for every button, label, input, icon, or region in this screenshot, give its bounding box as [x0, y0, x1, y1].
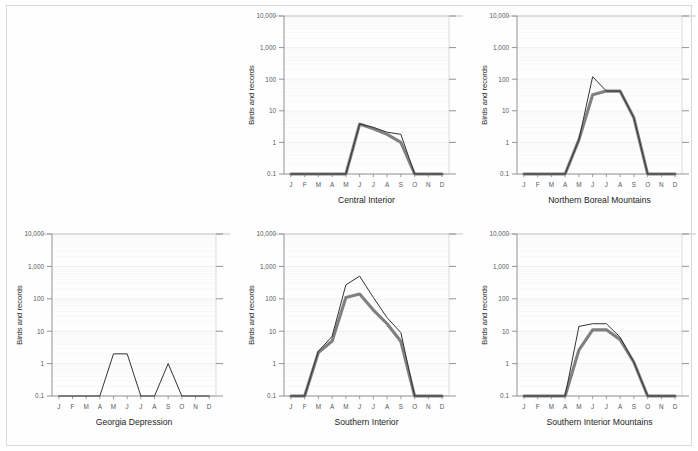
empty-cell [0, 0, 232, 218]
y-tick-label: 10 [269, 328, 277, 335]
x-tick-label: D [207, 403, 212, 410]
x-tick-label: N [659, 403, 664, 410]
y-tick-label: 10,000 [24, 230, 44, 237]
y-axis-label: Birds and records [15, 285, 24, 345]
x-tick-label: F [303, 403, 307, 410]
chart-panel: 10,0001,0001001010.1JFMAMJJASONDBirds an… [465, 218, 698, 440]
x-tick-label: N [426, 403, 431, 410]
x-tick-label: O [412, 403, 417, 410]
x-tick-label: S [632, 181, 636, 188]
panel-title: Southern Interior Mountains [546, 417, 652, 427]
x-tick-label: J [289, 403, 292, 410]
x-tick-label: N [659, 181, 664, 188]
y-tick-label: 1 [272, 139, 276, 146]
chart-panel: 10,0001,0001001010.1JFMAMJJASONDBirds an… [465, 0, 698, 218]
x-tick-label: D [673, 403, 678, 410]
y-tick-label: 1,000 [28, 263, 44, 270]
y-tick-label: 10,000 [256, 12, 276, 19]
y-tick-label: 1,000 [493, 44, 509, 51]
panel-title: Georgia Depression [96, 417, 173, 427]
x-tick-label: J [358, 181, 361, 188]
x-tick-label: J [289, 181, 292, 188]
y-tick-label: 0.1 [267, 392, 276, 399]
y-tick-label: 1,000 [493, 263, 509, 270]
panel-title: Central Interior [338, 195, 395, 205]
x-tick-label: M [343, 403, 348, 410]
y-tick-label: 10 [502, 328, 510, 335]
x-tick-label: A [385, 403, 390, 410]
x-tick-label: J [522, 181, 525, 188]
x-tick-label: O [412, 181, 417, 188]
x-tick-label: F [71, 403, 75, 410]
panel-cell-georgia-depression: 10,0001,0001001010.1JFMAMJJASONDBirds an… [0, 218, 232, 440]
chart-panel: 10,0001,0001001010.1JFMAMJJASONDBirds an… [232, 0, 465, 218]
y-tick-label: 1 [505, 360, 509, 367]
x-tick-label: J [358, 403, 361, 410]
x-tick-label: S [166, 403, 170, 410]
panel-cell-northern-boreal-mountains: 10,0001,0001001010.1JFMAMJJASONDBirds an… [465, 0, 698, 218]
x-tick-label: D [440, 403, 445, 410]
x-tick-label: A [385, 181, 390, 188]
panel-title: Southern Interior [334, 417, 398, 427]
y-tick-label: 10 [37, 328, 45, 335]
x-tick-label: A [98, 403, 103, 410]
x-tick-label: J [522, 403, 525, 410]
x-tick-label: M [576, 403, 581, 410]
x-tick-label: J [372, 403, 375, 410]
y-tick-label: 0.1 [267, 170, 276, 177]
x-tick-label: J [591, 181, 594, 188]
x-tick-label: F [536, 403, 540, 410]
y-tick-label: 100 [498, 76, 509, 83]
x-tick-label: O [645, 181, 650, 188]
small-multiples-grid: 10,0001,0001001010.1JFMAMJJASONDBirds an… [0, 0, 698, 451]
x-tick-label: M [111, 403, 116, 410]
x-tick-label: S [399, 181, 403, 188]
panel-cell-southern-interior-mountains: 10,0001,0001001010.1JFMAMJJASONDBirds an… [465, 218, 698, 440]
y-axis-label: Birds and records [247, 285, 256, 345]
y-tick-label: 100 [265, 295, 276, 302]
y-tick-label: 100 [33, 295, 44, 302]
y-tick-label: 1 [272, 360, 276, 367]
y-tick-label: 1,000 [260, 44, 276, 51]
x-tick-label: M [316, 403, 321, 410]
x-tick-label: J [57, 403, 60, 410]
x-tick-label: J [139, 403, 142, 410]
y-tick-label: 1,000 [260, 263, 276, 270]
x-tick-label: J [126, 403, 129, 410]
x-tick-label: A [563, 403, 568, 410]
y-tick-label: 1 [505, 139, 509, 146]
x-tick-label: S [632, 403, 636, 410]
x-tick-label: J [372, 181, 375, 188]
y-axis-label: Birds and records [480, 285, 489, 345]
chart-panel: 10,0001,0001001010.1JFMAMJJASONDBirds an… [232, 218, 465, 440]
y-tick-label: 1 [40, 360, 44, 367]
x-tick-label: J [605, 181, 608, 188]
x-tick-label: J [591, 403, 594, 410]
x-tick-label: D [440, 181, 445, 188]
x-tick-label: A [330, 181, 335, 188]
y-tick-label: 0.1 [35, 392, 44, 399]
y-tick-label: 10,000 [489, 230, 509, 237]
y-axis-label: Birds and records [247, 65, 256, 125]
x-tick-label: A [618, 181, 623, 188]
x-tick-label: M [549, 181, 554, 188]
x-tick-label: M [549, 403, 554, 410]
y-tick-label: 0.1 [500, 170, 509, 177]
y-axis-label: Birds and records [480, 65, 489, 125]
y-tick-label: 10 [502, 107, 510, 114]
x-tick-label: F [303, 181, 307, 188]
x-tick-label: O [179, 403, 184, 410]
x-tick-label: A [563, 181, 568, 188]
x-tick-label: A [330, 403, 335, 410]
x-tick-label: N [426, 181, 431, 188]
x-tick-label: M [316, 181, 321, 188]
y-tick-label: 10,000 [256, 230, 276, 237]
panel-cell-central-interior: 10,0001,0001001010.1JFMAMJJASONDBirds an… [232, 0, 465, 218]
x-tick-label: J [605, 403, 608, 410]
figure-page: 10,0001,0001001010.1JFMAMJJASONDBirds an… [0, 0, 698, 451]
x-tick-label: S [399, 403, 403, 410]
panel-cell-southern-interior: 10,0001,0001001010.1JFMAMJJASONDBirds an… [232, 218, 465, 440]
y-tick-label: 100 [498, 295, 509, 302]
x-tick-label: M [84, 403, 89, 410]
x-tick-label: O [645, 403, 650, 410]
